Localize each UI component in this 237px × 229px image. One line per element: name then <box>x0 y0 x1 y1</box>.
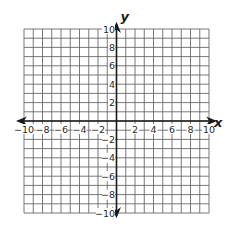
x-tick-label: −10 <box>14 124 34 135</box>
x-tick-label: 6 <box>169 124 175 135</box>
y-axis-name: y <box>121 9 130 24</box>
coordinate-plane: −10−8−6−4−2246810108642−2−4−6−8−10 x y <box>0 0 237 229</box>
x-axis-name: x <box>213 115 223 130</box>
y-tick-label: 6 <box>109 60 115 71</box>
x-tick-label: 2 <box>132 124 138 135</box>
y-tick-label: 2 <box>109 97 115 108</box>
x-tick-label: −8 <box>35 124 49 135</box>
y-tick-label: 8 <box>109 42 115 53</box>
y-tick-label: 4 <box>109 79 115 90</box>
x-tick-label: −2 <box>91 124 105 135</box>
y-tick-label: −8 <box>101 189 115 200</box>
x-tick-label: −4 <box>72 124 86 135</box>
axes <box>18 24 215 216</box>
y-tick-label: 10 <box>103 24 115 35</box>
y-tick-label: −4 <box>101 152 115 163</box>
y-tick-label: −6 <box>101 171 115 182</box>
x-tick-label: −6 <box>54 124 68 135</box>
x-tick-label: 8 <box>187 124 193 135</box>
x-tick-label: 4 <box>150 124 156 135</box>
y-tick-label: −2 <box>101 134 115 145</box>
y-tick-label: −10 <box>95 208 115 219</box>
